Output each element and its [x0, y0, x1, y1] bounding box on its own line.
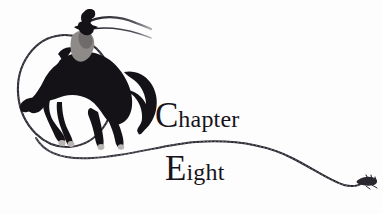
rope-frayed-tip — [357, 175, 377, 189]
chapter-heading-page: Chapter Eight — [0, 0, 383, 214]
chapter-word-rest: hapter — [178, 106, 239, 132]
chapter-heading-line-one: Chapter — [155, 98, 240, 133]
chapter-heading-line-two: Eight — [165, 151, 225, 186]
eight-word-rest: ight — [186, 159, 224, 185]
chapter-dropcap: C — [155, 96, 178, 135]
eight-dropcap: E — [165, 149, 186, 188]
